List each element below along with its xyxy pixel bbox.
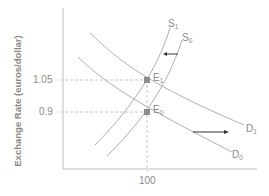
equilibrium-point-e0 [144,109,150,115]
label-e1: E1 [153,73,163,85]
equilibrium-point-e1 [144,77,150,83]
y-tick-0-9: 0.9 [39,107,53,117]
arrow-right-icon [224,130,229,134]
supply-curve-s1 [95,28,170,145]
label-s0: S0 [182,33,192,45]
label-d1: D1 [246,124,257,136]
y-tick-1-05: 1.05 [33,75,52,85]
label-d0: D0 [232,150,243,162]
label-e0: E0 [153,105,163,117]
x-tick-100: 100 [139,176,156,186]
demand-curve-d1 [90,33,244,125]
chart-canvas [0,0,269,196]
supply-demand-chart: Exchange Rate (euros/dollar) 1.05 0.9 10… [0,0,269,196]
label-s1: S1 [168,19,178,31]
arrow-left-icon [163,52,167,56]
